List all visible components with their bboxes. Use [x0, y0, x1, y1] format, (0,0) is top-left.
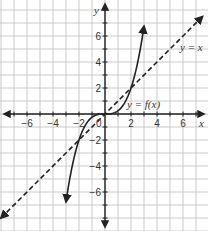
x-tick-label: 2 [128, 118, 134, 129]
x-tick-label: 6 [180, 118, 186, 129]
y-tick-label: −2 [90, 135, 102, 146]
x-tick-label: −4 [47, 118, 59, 129]
x-tick-label: −6 [21, 118, 33, 129]
y-tick-label: 6 [95, 31, 101, 42]
y-tick-label: −6 [90, 187, 102, 198]
x-tick-label: 4 [154, 118, 160, 129]
origin-label: 0 [96, 118, 102, 129]
y-tick-label: 2 [95, 83, 101, 94]
y-axis-label: y [93, 4, 99, 16]
function-graph: −6−4−2246642−2−4−6 x y 0 y = f(x) y = x [0, 0, 208, 231]
identity-line-label: y = x [179, 41, 203, 53]
y-tick-label: 4 [95, 57, 101, 68]
x-axis-label: x [198, 117, 204, 129]
curve-f-label: y = f(x) [126, 98, 160, 111]
y-tick-label: −4 [90, 161, 102, 172]
